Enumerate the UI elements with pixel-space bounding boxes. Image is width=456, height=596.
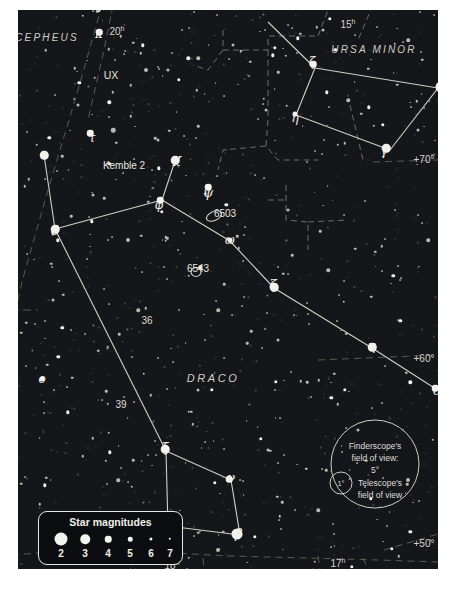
star xyxy=(36,56,37,57)
star xyxy=(332,200,334,202)
star xyxy=(346,44,347,45)
star xyxy=(37,326,38,327)
star xyxy=(166,388,168,390)
star xyxy=(30,68,31,69)
star xyxy=(333,373,336,376)
star xyxy=(177,346,178,347)
star xyxy=(411,494,412,495)
star xyxy=(409,530,412,533)
star xyxy=(208,447,209,448)
star xyxy=(348,391,350,393)
star xyxy=(370,59,372,61)
star xyxy=(125,473,126,474)
star xyxy=(406,426,407,427)
star xyxy=(384,365,386,367)
star xyxy=(296,308,297,309)
star xyxy=(415,187,416,188)
star xyxy=(335,438,336,439)
star xyxy=(326,125,328,127)
star xyxy=(80,71,81,72)
star xyxy=(18,378,19,379)
star xyxy=(123,53,125,55)
star xyxy=(133,159,135,161)
star xyxy=(354,220,355,221)
star xyxy=(351,558,352,559)
legend-magnitude-dot xyxy=(149,537,152,540)
star xyxy=(283,380,285,382)
star xyxy=(219,147,220,148)
legend-magnitude-label: 5 xyxy=(127,548,133,559)
star xyxy=(403,429,405,431)
star xyxy=(398,177,399,178)
star xyxy=(216,14,218,16)
star xyxy=(72,291,73,292)
star xyxy=(69,349,70,350)
star xyxy=(180,94,181,95)
star xyxy=(284,54,287,57)
star xyxy=(223,232,224,233)
star xyxy=(23,185,26,188)
star xyxy=(190,410,193,413)
star xyxy=(132,459,135,462)
star xyxy=(147,201,150,204)
star xyxy=(368,159,369,160)
star xyxy=(87,130,94,137)
star xyxy=(50,263,53,266)
star xyxy=(256,361,257,362)
star xyxy=(43,429,44,430)
star xyxy=(114,59,116,61)
star xyxy=(107,101,110,104)
star xyxy=(222,477,223,478)
star xyxy=(91,114,93,116)
star xyxy=(117,153,118,154)
star xyxy=(54,217,55,218)
star xyxy=(367,106,370,109)
star xyxy=(399,334,400,335)
star xyxy=(184,275,185,276)
star xyxy=(190,159,191,160)
star xyxy=(82,455,85,458)
star xyxy=(287,273,289,275)
star xyxy=(330,396,333,399)
star xyxy=(259,31,261,33)
star xyxy=(214,35,216,37)
star xyxy=(187,275,190,278)
star xyxy=(190,63,191,64)
star xyxy=(165,174,166,175)
star xyxy=(193,535,195,537)
star xyxy=(279,390,280,391)
star xyxy=(53,390,55,392)
star xyxy=(349,469,351,471)
star xyxy=(76,71,78,73)
star xyxy=(248,296,249,297)
star xyxy=(194,96,195,97)
star xyxy=(328,227,329,228)
star xyxy=(279,417,281,419)
star xyxy=(142,470,143,471)
star xyxy=(20,482,23,485)
star xyxy=(63,221,64,222)
star xyxy=(158,68,160,70)
star xyxy=(65,452,66,453)
legend-magnitude-label: 7 xyxy=(167,548,173,559)
star xyxy=(336,403,339,406)
star xyxy=(66,411,69,414)
star xyxy=(345,333,348,336)
star xyxy=(364,200,366,202)
star xyxy=(193,11,195,13)
star xyxy=(369,49,370,50)
star xyxy=(170,245,171,246)
star xyxy=(296,14,297,15)
star xyxy=(352,383,353,384)
star xyxy=(425,424,426,425)
star xyxy=(57,355,60,358)
star xyxy=(46,363,49,366)
star xyxy=(358,507,359,508)
star xyxy=(386,525,388,527)
star xyxy=(419,12,421,14)
star xyxy=(136,389,137,390)
star xyxy=(299,32,302,35)
star xyxy=(39,507,40,508)
star xyxy=(78,81,81,84)
star xyxy=(101,399,103,401)
